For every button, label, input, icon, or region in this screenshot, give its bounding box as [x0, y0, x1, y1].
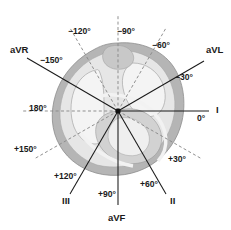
angle-label-pos60: +60° [140, 180, 158, 189]
angle-label-neg120: −120° [68, 27, 91, 36]
origin-point [115, 108, 120, 113]
angle-label-neg60: −60° [152, 41, 170, 50]
angle-label-pos30: +30° [168, 155, 186, 164]
angle-label-neg90: −90° [117, 27, 135, 36]
angle-label-neg30: −30° [175, 73, 193, 82]
lead-label-i: I [216, 105, 219, 115]
hexaxial-reference-diagram: aVR aVL I II III aVF −150° −120° −90° −6… [0, 0, 231, 230]
lead-label-avr: aVR [10, 45, 28, 55]
lead-label-avl: aVL [206, 45, 223, 55]
angle-label-neg150: −150° [40, 56, 63, 65]
angle-label-pos150: +150° [14, 145, 37, 154]
lead-label-avf: aVF [108, 213, 125, 223]
angle-label-pos120: +120° [54, 172, 77, 181]
lead-label-iii: III [62, 196, 70, 206]
angle-label-180: 180° [29, 104, 47, 113]
angle-label-zero: 0° [197, 114, 205, 123]
angle-label-pos90: +90° [98, 190, 116, 199]
lead-label-ii: II [170, 196, 175, 206]
